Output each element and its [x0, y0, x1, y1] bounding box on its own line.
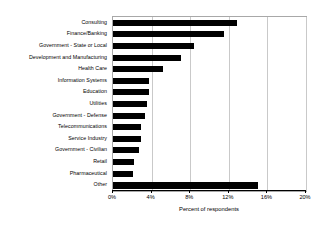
x-tick-label: 4%	[138, 194, 164, 201]
category-label: Government - Civilian	[0, 146, 107, 152]
category-label: Telecommunications	[0, 123, 107, 129]
category-label: Education	[0, 88, 107, 94]
bar	[113, 78, 149, 84]
bar	[113, 171, 133, 177]
x-tick-label: 16%	[253, 194, 279, 201]
x-tick	[305, 190, 306, 193]
gridline	[229, 17, 230, 191]
bar	[113, 113, 145, 119]
bar	[113, 159, 134, 165]
bar	[113, 101, 147, 107]
x-tick-label: 12%	[215, 194, 241, 201]
gridline	[267, 17, 268, 191]
x-tick	[112, 190, 113, 193]
category-label: Government - State or Local	[0, 42, 107, 48]
category-label: Pharmaceutical	[0, 170, 107, 176]
bar	[113, 31, 224, 37]
category-label: Finance/Banking	[0, 30, 107, 36]
bar	[113, 43, 194, 49]
category-axis: ConsultingFinance/BankingGovernment - St…	[0, 16, 110, 190]
bar	[113, 89, 149, 95]
category-label: Government - Defense	[0, 112, 107, 118]
x-tick-label: 8%	[176, 194, 202, 201]
bar	[113, 55, 181, 61]
bar	[113, 147, 139, 153]
x-axis-line	[112, 190, 306, 191]
category-label: Utilities	[0, 100, 107, 106]
x-tick	[266, 190, 267, 193]
x-tick	[228, 190, 229, 193]
category-label: Health Care	[0, 65, 107, 71]
x-tick	[151, 190, 152, 193]
bar-chart: ConsultingFinance/BankingGovernment - St…	[0, 0, 328, 226]
x-tick	[189, 190, 190, 193]
x-tick-label: 0%	[99, 194, 125, 201]
category-label: Information Systems	[0, 77, 107, 83]
plot-area	[112, 16, 307, 192]
category-label: Development and Manufacturing	[0, 54, 107, 60]
category-label: Consulting	[0, 19, 107, 25]
x-tick-label: 20%	[292, 194, 318, 201]
bar	[113, 66, 163, 72]
x-axis-title: Percent of respondents	[112, 206, 306, 212]
category-label: Other	[0, 181, 107, 187]
category-label: Service Industry	[0, 135, 107, 141]
bar	[113, 20, 237, 26]
bar	[113, 136, 141, 142]
category-label: Retail	[0, 158, 107, 164]
bar	[113, 124, 141, 130]
bar	[113, 182, 258, 189]
gridline	[306, 17, 307, 191]
